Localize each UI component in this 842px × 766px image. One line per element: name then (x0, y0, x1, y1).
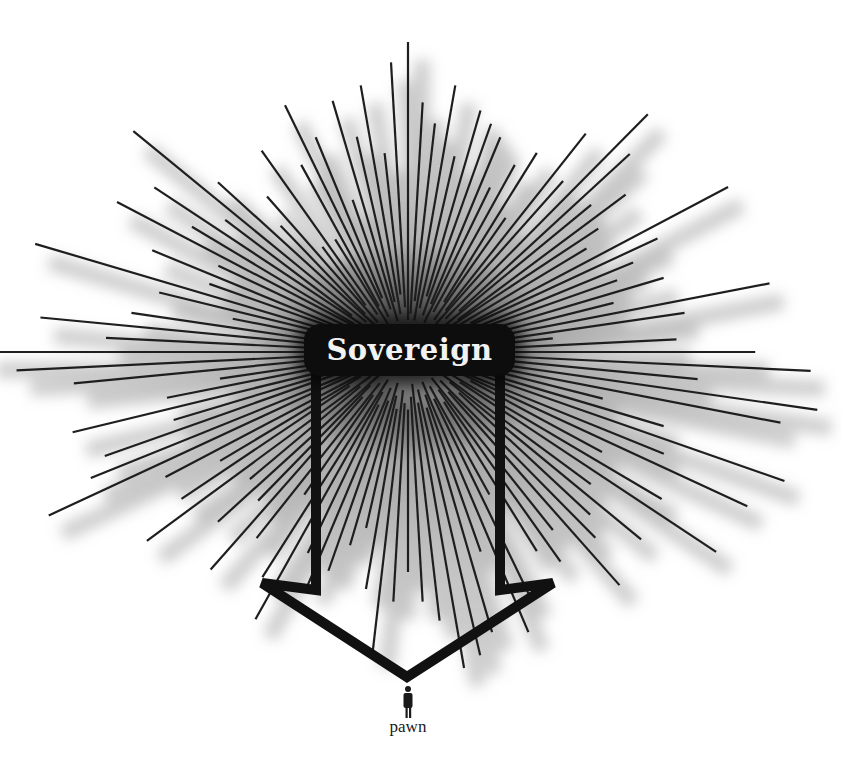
sovereign-node: Sovereign (304, 324, 515, 376)
sovereign-label: Sovereign (326, 333, 492, 367)
diagram-canvas: Sovereign pawn (0, 0, 842, 766)
radiating-lines (0, 0, 842, 766)
pawn-person-icon (404, 686, 413, 718)
pawn-label: pawn (378, 717, 438, 737)
